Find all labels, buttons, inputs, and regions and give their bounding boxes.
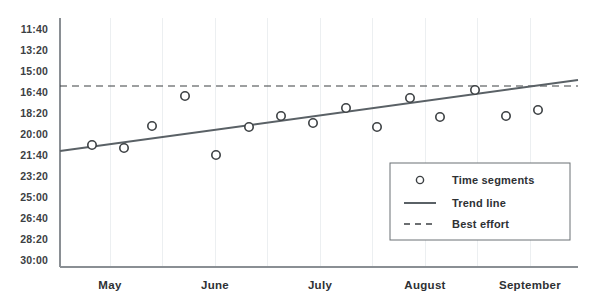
y-axis-tick-label: 11:40	[21, 23, 48, 35]
x-axis-tick-label: June	[201, 279, 229, 291]
legend-label-best-effort: Best effort	[452, 218, 509, 230]
data-point-marker	[471, 86, 479, 94]
y-axis-tick-label: 15:00	[20, 65, 48, 77]
x-axis-tick-label: August	[404, 279, 445, 291]
y-axis-tick-label: 20:00	[20, 128, 48, 140]
data-point-marker	[406, 94, 414, 102]
chart-legend: Time segments Trend line Best effort	[390, 163, 570, 240]
data-point-marker	[88, 141, 96, 149]
y-axis-tick-label: 16:40	[20, 86, 48, 98]
data-point-marker	[148, 122, 156, 130]
data-point-marker	[181, 92, 189, 100]
legend-label-time-segments: Time segments	[452, 174, 534, 186]
y-axis-tick-label: 21:40	[20, 149, 48, 161]
y-axis-tick-label: 28:20	[20, 233, 48, 245]
y-axis-tick-label: 25:00	[20, 191, 48, 203]
y-axis-tick-label: 13:20	[20, 44, 48, 56]
y-axis-tick-label: 30:00	[20, 254, 48, 266]
data-point-marker	[502, 112, 510, 120]
chart-container: 11:4013:2015:0016:4018:2020:0021:4023:20…	[0, 0, 590, 308]
y-axis-tick-label: 26:40	[20, 212, 48, 224]
data-point-marker	[212, 151, 220, 159]
data-point-marker	[373, 123, 381, 131]
legend-label-trend-line: Trend line	[452, 197, 506, 209]
data-point-marker	[309, 119, 317, 127]
x-axis-tick-label: May	[98, 279, 122, 291]
data-point-marker	[120, 144, 128, 152]
y-axis-tick-label: 18:20	[20, 107, 48, 119]
data-point-marker	[245, 123, 253, 131]
y-axis-tick-label: 23:20	[20, 170, 48, 182]
data-point-marker	[277, 112, 285, 120]
data-point-marker	[534, 106, 542, 114]
chart-background	[0, 0, 590, 308]
x-axis-tick-label: July	[308, 279, 333, 291]
x-axis-tick-label: September	[499, 279, 561, 291]
time-segments-scatter-chart: 11:4013:2015:0016:4018:2020:0021:4023:20…	[0, 0, 590, 308]
data-point-marker	[436, 113, 444, 121]
data-point-marker	[342, 104, 350, 112]
